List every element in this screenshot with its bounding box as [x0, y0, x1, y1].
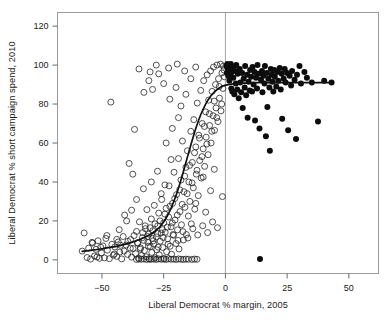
data-point — [162, 182, 168, 188]
data-point — [133, 251, 139, 257]
data-point — [294, 72, 300, 78]
data-point — [245, 115, 251, 121]
data-point — [208, 68, 214, 74]
data-point — [205, 230, 211, 236]
data-point — [164, 224, 170, 230]
data-point — [194, 100, 200, 106]
data-point — [132, 126, 138, 132]
data-point — [267, 148, 273, 154]
data-point — [136, 219, 142, 225]
data-point — [204, 141, 210, 147]
y-tick-label: 120 — [33, 21, 48, 31]
data-point — [278, 86, 284, 92]
data-point — [211, 64, 217, 70]
data-point — [200, 223, 206, 229]
data-point — [175, 115, 181, 121]
data-point — [136, 66, 142, 72]
data-point — [146, 78, 152, 84]
data-point — [301, 69, 307, 75]
data-point — [141, 89, 147, 95]
data-point — [296, 63, 302, 69]
data-point — [194, 167, 200, 173]
data-point — [120, 233, 126, 239]
x-axis-ticks: −50−2502550 — [94, 274, 354, 293]
data-point — [81, 230, 87, 236]
data-point — [188, 76, 194, 82]
y-tick-label: 80 — [38, 99, 48, 109]
data-point — [163, 205, 169, 211]
data-point — [171, 169, 177, 175]
data-point — [167, 96, 173, 102]
data-point — [210, 219, 216, 225]
data-point — [119, 256, 125, 262]
data-point — [195, 232, 201, 238]
data-point — [153, 62, 159, 68]
data-point — [254, 85, 260, 91]
data-point — [168, 157, 174, 163]
data-point — [193, 144, 199, 150]
data-point — [240, 105, 246, 111]
data-point — [215, 119, 221, 125]
data-point — [182, 68, 188, 74]
data-point — [155, 168, 161, 174]
data-point — [187, 198, 193, 204]
fitted-trend-curve — [82, 83, 331, 252]
data-point — [159, 196, 165, 202]
data-point — [203, 134, 209, 140]
data-point — [124, 218, 130, 224]
data-point — [191, 117, 197, 123]
data-point — [252, 118, 258, 124]
data-point — [219, 194, 225, 200]
data-point — [293, 136, 299, 142]
x-tick-label: 50 — [344, 283, 354, 293]
data-point — [213, 82, 219, 88]
data-point — [279, 116, 285, 122]
data-point — [192, 206, 198, 212]
data-point — [166, 183, 172, 189]
data-point — [175, 156, 181, 162]
data-point — [285, 127, 291, 133]
data-point — [108, 99, 114, 105]
data-point — [156, 71, 162, 77]
data-point — [195, 193, 201, 199]
data-point — [203, 209, 209, 215]
data-point — [84, 255, 90, 261]
data-point — [183, 91, 189, 97]
x-tick-label: 25 — [282, 283, 292, 293]
scatter-plot: −50−2502550 020406080100120 Liberal Demo… — [0, 0, 389, 320]
data-point — [264, 104, 270, 110]
data-point — [255, 62, 261, 68]
data-point — [204, 72, 210, 78]
data-point — [219, 101, 225, 107]
data-point — [315, 119, 321, 125]
data-points-filled-circles — [223, 61, 334, 262]
y-axis-ticks: 020406080100120 — [33, 21, 57, 265]
data-point — [174, 61, 180, 67]
data-point — [200, 174, 206, 180]
data-point — [262, 63, 268, 69]
x-axis-label: Liberal Democrat % margin, 2005 — [148, 300, 288, 310]
data-point — [126, 160, 132, 166]
data-point — [256, 125, 262, 131]
figure-container: −50−2502550 020406080100120 Liberal Demo… — [0, 0, 389, 320]
data-point — [263, 133, 269, 139]
data-point — [147, 69, 153, 75]
data-point — [163, 140, 169, 146]
data-point — [148, 179, 154, 185]
data-point — [144, 207, 150, 213]
y-axis-label: Liberal Democrat % short campaign spend,… — [7, 41, 17, 244]
data-point — [208, 188, 214, 194]
data-point — [134, 196, 140, 202]
data-point — [140, 186, 146, 192]
data-point — [261, 81, 267, 87]
data-point — [206, 111, 212, 117]
y-tick-label: 60 — [38, 138, 48, 148]
data-point — [178, 103, 184, 109]
data-point — [179, 138, 185, 144]
data-point — [214, 115, 220, 121]
data-point — [151, 202, 157, 208]
data-point — [257, 256, 263, 262]
data-point — [202, 163, 208, 169]
data-point — [210, 113, 216, 119]
y-tick-label: 0 — [43, 255, 48, 265]
